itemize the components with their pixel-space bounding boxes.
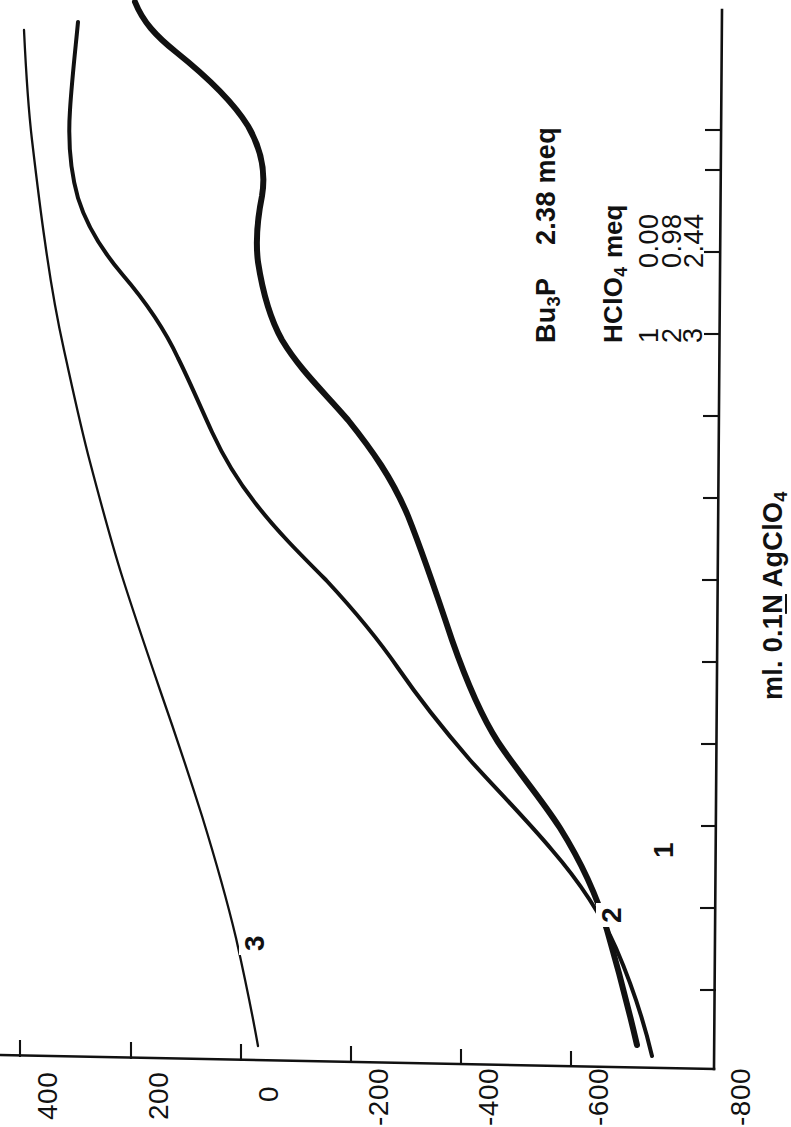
series-curve-2: [69, 22, 652, 1056]
x-axis-title: ml. 0.1N AgClO4: [760, 491, 791, 700]
legend-reagent-prefix: HClO: [598, 277, 628, 343]
curve-label-2: 2: [596, 903, 628, 927]
y-axis-line: [0, 1055, 714, 1069]
legend-compound-subscript: 3: [543, 296, 564, 307]
series-curve-3: [24, 30, 258, 1046]
curve-label-3: 3: [239, 931, 271, 955]
y-tick-label-0: 0: [255, 1086, 283, 1102]
legend-reagent: HClO4: [600, 267, 631, 343]
y-tick-label-400: 400: [34, 1072, 62, 1120]
legend-row-value-3: 2.44: [681, 213, 708, 268]
legend-units-header: meq: [600, 205, 626, 258]
y-axis-group: [0, 1040, 714, 1069]
legend-compound: Bu3P: [533, 278, 564, 343]
legend-amount: 2.38 meq: [533, 127, 560, 245]
x-axis-title-suffix: AgClO: [758, 502, 788, 594]
legend-row-index-3: 3: [680, 328, 707, 343]
y-tick-label-n200: -200: [365, 1068, 393, 1126]
y-tick-label-n600: -600: [585, 1068, 613, 1126]
y-tick-label-200: 200: [145, 1072, 173, 1120]
series-curve-1: [135, 2, 637, 1045]
x-axis-title-normality: N: [758, 594, 788, 614]
y-tick-label-n800: -800: [727, 1068, 755, 1126]
y-tick-label-n400: -400: [475, 1068, 503, 1126]
curve-label-1: 1: [648, 838, 680, 862]
x-axis-group: [700, 10, 722, 1069]
x-axis-title-prefix: ml. 0.1: [758, 614, 788, 700]
x-axis-title-subscript: 4: [770, 491, 791, 502]
x-axis-line: [714, 10, 722, 1069]
legend-compound-prefix: Bu: [531, 306, 561, 343]
legend-reagent-subscript: 4: [611, 267, 631, 277]
legend-compound-suffix: P: [531, 278, 561, 296]
